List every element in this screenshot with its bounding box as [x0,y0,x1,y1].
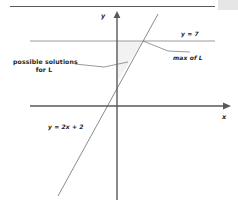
label-possible-solutions: possible solutions for L [13,58,75,74]
y-axis-arrow-icon [114,11,121,18]
y-axis-label: y [101,12,105,20]
x-axis-label: x [222,113,226,121]
max-of-l-leader-line [143,41,190,52]
graph-canvas [0,0,238,208]
label-line-equation: y = 2x + 2 [48,123,84,131]
possible-solutions-region [117,41,143,82]
label-max-of-l: max of L [173,54,203,62]
label-possible-solutions-line2: for L [13,66,75,74]
label-possible-solutions-line1: possible solutions [13,58,75,66]
corner-swatch [218,0,238,10]
x-axis-arrow-icon [223,103,231,110]
graph-figure: y x y = 7 max of L y = 2x + 2 possible s… [0,0,238,208]
label-y-equals-7: y = 7 [181,30,199,38]
